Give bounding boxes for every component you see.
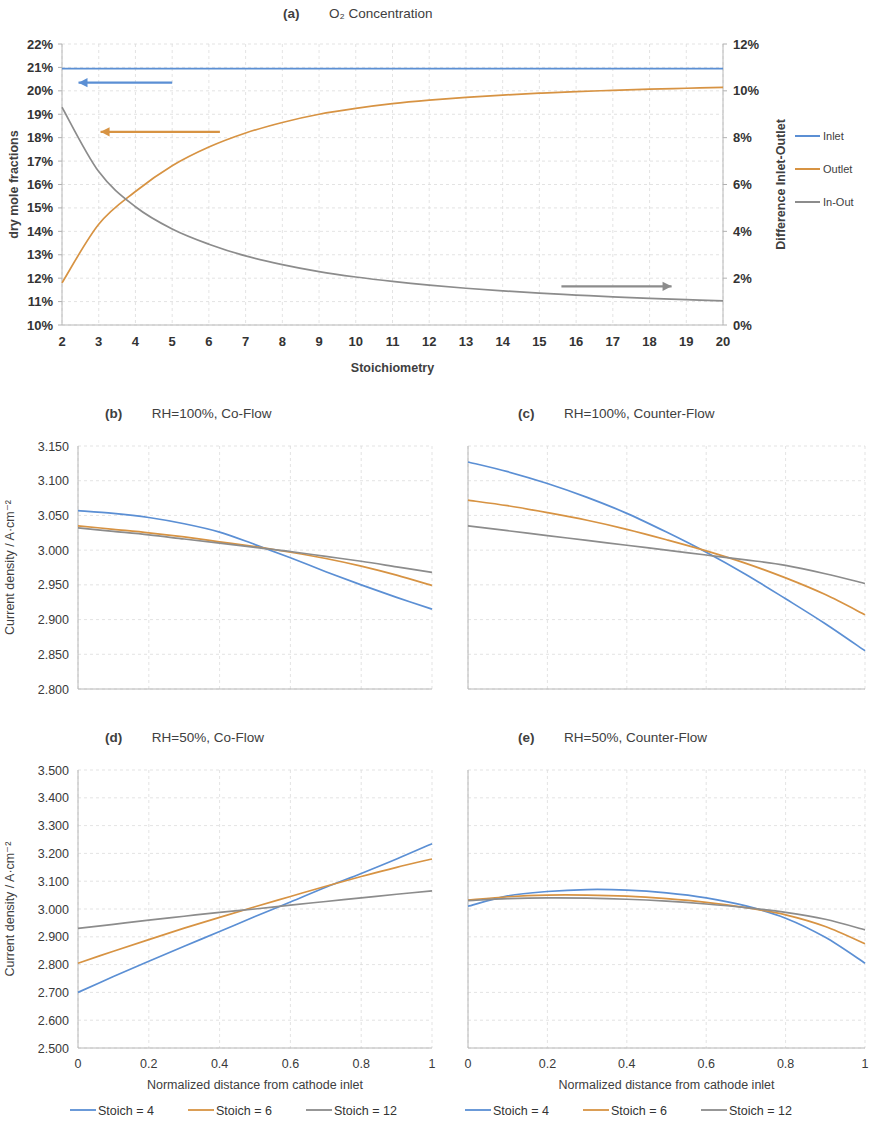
ytick-right-label: 12%	[733, 37, 759, 52]
series-line-stoich-6	[78, 859, 432, 963]
panel-b-tag: (b)	[105, 406, 122, 421]
ytick-right-label: 10%	[733, 83, 759, 98]
ytick-label: 2.900	[38, 613, 69, 627]
ytick-label: 3.050	[38, 509, 69, 523]
xtick-label: 16	[569, 334, 583, 349]
xtick-label: 6	[205, 334, 212, 349]
legend-label-outlet: Outlet	[823, 163, 852, 175]
ytick-left-label: 12%	[27, 271, 53, 286]
panel-e-plot: 00.20.40.60.81Normalized distance from c…	[440, 758, 877, 1088]
ytick-left-label: 13%	[27, 247, 53, 262]
panel-b-grid	[78, 446, 432, 689]
series-line-stoich-6	[468, 500, 865, 615]
ytick-left-label: 19%	[27, 107, 53, 122]
ytick-right-label: 4%	[733, 224, 752, 239]
panel-a-title-text: O₂ Concentration	[329, 6, 433, 21]
panel-a-oxygen-concentration: (a) O₂ Concentration 22%21%20%19%18%17%1…	[0, 0, 877, 390]
panel-d-title-text: RH=50%, Co-Flow	[152, 730, 264, 745]
panel-e-xlabel: Normalized distance from cathode inlet	[558, 1078, 775, 1092]
panel-c-tag: (c)	[518, 406, 535, 421]
xtick-label: 17	[606, 334, 620, 349]
ytick-label: 3.100	[38, 875, 69, 889]
panel-c-title-text: RH=100%, Counter-Flow	[564, 406, 714, 421]
ytick-left-label: 21%	[27, 60, 53, 75]
panel-e-title-text: RH=50%, Counter-Flow	[564, 730, 707, 745]
xtick-label: 1	[429, 1057, 436, 1071]
ytick-label: 3.500	[38, 764, 69, 778]
legend-label-in-out: In-Out	[823, 196, 854, 208]
ytick-label: 3.200	[38, 847, 69, 861]
ytick-label: 2.800	[38, 683, 69, 697]
xtick-label: 11	[386, 334, 400, 349]
xtick-label: 12	[422, 334, 436, 349]
xtick-label: 20	[716, 334, 730, 349]
ytick-left-label: 10%	[27, 318, 53, 333]
panel-e-tag: (e)	[518, 730, 535, 745]
ytick-label: 2.500	[38, 1042, 69, 1056]
ytick-label: 2.850	[38, 648, 69, 662]
series-line-stoich-6	[78, 526, 432, 586]
panel-a-ylabel-right: Difference Inlet-Outlet	[774, 118, 788, 249]
panel-d-ylabel: Current density / A·cm⁻²	[3, 842, 17, 977]
panel-c-title: (c) RH=100%, Counter-Flow	[518, 406, 714, 421]
xtick-label: 3	[95, 334, 102, 349]
panel-b-rh100-coflow: (b) RH=100%, Co-Flow 3.1503.1003.0503.00…	[0, 398, 440, 728]
arrow-inout-to-right-axis-head	[663, 282, 672, 291]
arrow-outlet-to-left-axis	[101, 127, 220, 136]
panel-c-plot	[440, 434, 877, 724]
series-line-stoich-4	[468, 462, 865, 651]
panel-d-rh50-coflow: (d) RH=50%, Co-Flow 3.5003.4003.3003.200…	[0, 722, 440, 1092]
panel-a-tag: (a)	[283, 6, 300, 21]
xtick-label: 13	[459, 334, 473, 349]
xtick-label: 9	[315, 334, 322, 349]
legend-bottom-right: Stoich = 4Stoich = 6Stoich = 12	[440, 1092, 877, 1132]
ytick-label: 3.100	[38, 474, 69, 488]
xtick-label: 18	[642, 334, 656, 349]
xtick-label: 5	[169, 334, 176, 349]
arrow-inout-to-right-axis	[561, 282, 671, 291]
series-line-stoich-12	[468, 898, 865, 930]
xtick-label: 0	[75, 1057, 82, 1071]
ytick-left-label: 11%	[28, 294, 54, 309]
legend-label-stoich-4: Stoich = 4	[493, 1104, 549, 1118]
arrow-inlet-to-left-axis-head	[79, 78, 88, 87]
series-line-stoich-12	[78, 891, 432, 929]
xtick-label: 0.2	[140, 1057, 157, 1071]
ytick-right-label: 8%	[733, 130, 752, 145]
ytick-left-label: 14%	[27, 224, 53, 239]
xtick-label: 0.8	[777, 1057, 794, 1071]
xtick-label: 4	[132, 334, 140, 349]
panel-a-grid	[62, 44, 723, 325]
panel-e-title: (e) RH=50%, Counter-Flow	[518, 730, 707, 745]
xtick-label: 14	[495, 334, 510, 349]
ytick-label: 3.150	[38, 440, 69, 454]
series-line-stoich-4	[78, 511, 432, 610]
ytick-left-label: 20%	[27, 83, 53, 98]
xtick-label: 0.6	[698, 1057, 715, 1071]
ytick-label: 2.900	[38, 930, 69, 944]
panel-d-tag: (d)	[105, 730, 122, 745]
panel-b-title: (b) RH=100%, Co-Flow	[105, 406, 271, 421]
ytick-label: 3.000	[38, 544, 69, 558]
xtick-label: 15	[532, 334, 546, 349]
panel-a-plot: 22%21%20%19%18%17%16%15%14%13%12%11%10%1…	[0, 28, 877, 383]
legend-label-stoich-12: Stoich = 12	[334, 1104, 397, 1118]
ytick-left-label: 17%	[27, 154, 53, 169]
legend-bottom-left: Stoich = 4Stoich = 6Stoich = 12	[0, 1092, 440, 1132]
xtick-label: 0.6	[282, 1057, 299, 1071]
xtick-label: 19	[679, 334, 693, 349]
panel-a-title: (a) O₂ Concentration	[283, 6, 433, 21]
panel-d-plot: 3.5003.4003.3003.2003.1003.0002.9002.800…	[0, 758, 440, 1088]
panel-c-grid	[468, 446, 865, 689]
ytick-label: 3.300	[38, 819, 69, 833]
panel-a-xlabel: Stoichiometry	[351, 361, 434, 375]
xtick-label: 2	[58, 334, 65, 349]
legend-label-stoich-4: Stoich = 4	[98, 1104, 154, 1118]
ytick-left-label: 15%	[27, 200, 53, 215]
panel-a-legend: InletOutletIn-Out	[795, 130, 854, 208]
xtick-label: 1	[862, 1057, 869, 1071]
legend-label-stoich-6: Stoich = 6	[216, 1104, 272, 1118]
ytick-right-label: 6%	[733, 177, 752, 192]
ytick-label: 2.800	[38, 958, 69, 972]
panel-d-title: (d) RH=50%, Co-Flow	[105, 730, 264, 745]
